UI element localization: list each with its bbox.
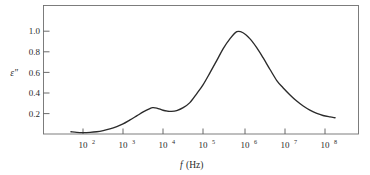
y-tick-label-0.2: 0.2 bbox=[29, 109, 40, 119]
chart-background bbox=[0, 0, 370, 175]
x-tick-exponent-1e2: 2 bbox=[92, 138, 95, 145]
x-tick-exponent-1e4: 4 bbox=[172, 138, 175, 145]
dielectric-loss-chart: 1.0 0.8 0.6 0.4 0.2 ε″ 10 2 10 3 bbox=[0, 0, 370, 175]
x-axis-title-unit: (Hz) bbox=[186, 160, 203, 171]
x-tick-mantissa-1e3: 10 bbox=[119, 140, 129, 150]
x-tick-mantissa-1e5: 10 bbox=[199, 140, 209, 150]
x-tick-mantissa-1e4: 10 bbox=[159, 140, 169, 150]
x-tick-mantissa-1e2: 10 bbox=[79, 140, 89, 150]
x-tick-exponent-1e5: 5 bbox=[212, 138, 215, 145]
x-tick-mantissa-1e6: 10 bbox=[241, 140, 251, 150]
x-tick-exponent-1e3: 3 bbox=[132, 138, 135, 145]
y-tick-label-1.0: 1.0 bbox=[29, 26, 41, 36]
y-axis-title: ε″ bbox=[10, 68, 19, 78]
x-tick-exponent-1e8: 8 bbox=[334, 138, 337, 145]
chart-svg: 1.0 0.8 0.6 0.4 0.2 ε″ 10 2 10 3 bbox=[0, 0, 370, 175]
y-tick-label-0.4: 0.4 bbox=[29, 88, 41, 98]
y-tick-label-0.8: 0.8 bbox=[29, 47, 41, 57]
x-tick-mantissa-1e7: 10 bbox=[281, 140, 291, 150]
x-tick-mantissa-1e8: 10 bbox=[321, 140, 331, 150]
y-tick-label-0.6: 0.6 bbox=[29, 68, 41, 78]
x-tick-exponent-1e6: 6 bbox=[254, 138, 257, 145]
x-tick-exponent-1e7: 7 bbox=[294, 138, 297, 145]
